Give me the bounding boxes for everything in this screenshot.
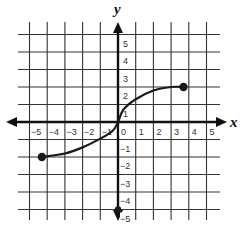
x-tick-label: −2 — [84, 127, 94, 137]
y-tick-label: 5 — [123, 39, 128, 49]
x-tick-label: 3 — [174, 127, 179, 137]
y-tick-label: 2 — [123, 91, 128, 101]
y-tick-label: −5 — [120, 214, 130, 224]
y-axis-up-arrow-icon — [113, 22, 123, 33]
plot-series — [38, 83, 188, 213]
x-tick-label: −4 — [49, 127, 59, 137]
x-tick-label: −5 — [31, 127, 41, 137]
x-axis-left-arrow-icon — [6, 117, 17, 127]
y-tick-label: −3 — [120, 179, 130, 189]
y-tick-label: −1 — [120, 144, 130, 154]
endpoint-closed-dot — [179, 83, 187, 91]
x-tick-label: 5 — [210, 127, 215, 137]
axis-point-dot — [115, 206, 121, 212]
endpoint-closed-dot — [38, 153, 46, 161]
x-axis-right-arrow-icon — [216, 117, 227, 127]
y-tick-label: 4 — [123, 56, 128, 66]
x-tick-label: 1 — [139, 127, 144, 137]
x-tick-label: 2 — [156, 127, 161, 137]
x-axis-label: x — [229, 114, 238, 130]
x-tick-label: −3 — [66, 127, 76, 137]
y-tick-label: −2 — [120, 161, 130, 171]
y-axis-label: y — [112, 1, 121, 17]
coordinate-plane-graph: x y −5−4−3−2−1012345−5−4−3−2−112345 — [0, 0, 240, 226]
y-tick-label: 3 — [123, 74, 128, 84]
x-tick-label: 4 — [192, 127, 197, 137]
y-tick-label: −4 — [120, 196, 130, 206]
x-tick-label: 0 — [121, 127, 126, 137]
